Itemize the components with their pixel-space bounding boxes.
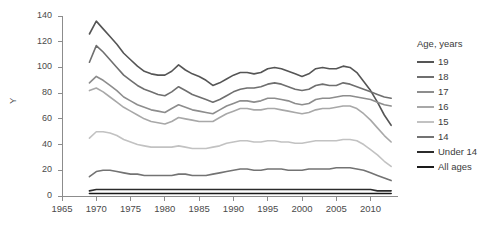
legend-item[interactable]: 16 bbox=[417, 99, 497, 114]
legend-swatch-icon bbox=[417, 136, 434, 138]
legend-item[interactable]: Under 14 bbox=[417, 144, 497, 159]
legend-item-label: All ages bbox=[438, 162, 472, 172]
series-group bbox=[89, 21, 391, 193]
y-axis-title: Y bbox=[7, 98, 18, 104]
y-axis-tick-label: 0 bbox=[20, 191, 52, 200]
axis-group bbox=[58, 16, 398, 201]
legend-item[interactable]: 14 bbox=[417, 129, 497, 144]
legend-item-label: 16 bbox=[438, 102, 449, 112]
y-axis-tick-label: 60 bbox=[20, 114, 52, 123]
series-line bbox=[89, 168, 391, 181]
legend-item-label: 17 bbox=[438, 87, 449, 97]
chart-svg bbox=[62, 16, 398, 196]
legend-item[interactable]: 19 bbox=[417, 54, 497, 69]
y-axis-tick-label: 120 bbox=[20, 37, 52, 46]
legend-swatch-icon bbox=[417, 106, 434, 108]
legend-item[interactable]: 17 bbox=[417, 84, 497, 99]
y-axis-tick-label: 80 bbox=[20, 88, 52, 97]
legend-item-label: 14 bbox=[438, 132, 449, 142]
legend-item-label: 15 bbox=[438, 117, 449, 127]
legend-swatch-icon bbox=[417, 166, 434, 168]
legend-swatch-icon bbox=[417, 91, 434, 93]
legend-swatch-icon bbox=[417, 121, 434, 123]
series-line bbox=[89, 21, 391, 125]
legend-swatch-icon bbox=[417, 76, 434, 78]
legend: Age, years 191817161514Under 14All ages bbox=[417, 38, 497, 174]
x-axis-tick-label: 2010 bbox=[351, 204, 391, 214]
legend-swatch-icon bbox=[417, 151, 434, 153]
y-axis-tick-label: 140 bbox=[20, 11, 52, 20]
legend-item-label: 19 bbox=[438, 57, 449, 67]
series-line bbox=[89, 190, 391, 191]
chart-figure: Y 020406080100120140 1965197019751980198… bbox=[0, 0, 500, 231]
legend-item[interactable]: 18 bbox=[417, 69, 497, 84]
plot-area bbox=[62, 16, 398, 196]
legend-item-label: 18 bbox=[438, 72, 449, 82]
legend-title: Age, years bbox=[417, 38, 497, 49]
legend-item-label: Under 14 bbox=[438, 147, 477, 157]
series-line bbox=[89, 46, 391, 103]
legend-items: 191817161514Under 14All ages bbox=[417, 54, 497, 174]
y-axis-tick-label: 100 bbox=[20, 62, 52, 71]
legend-item[interactable]: All ages bbox=[417, 159, 497, 174]
legend-item[interactable]: 15 bbox=[417, 114, 497, 129]
y-axis-tick-label: 40 bbox=[20, 140, 52, 149]
legend-swatch-icon bbox=[417, 61, 434, 63]
series-line bbox=[89, 132, 391, 167]
y-axis-tick-label: 20 bbox=[20, 165, 52, 174]
